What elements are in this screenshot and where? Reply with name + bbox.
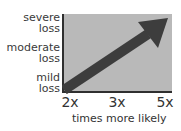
x-axis-title: times more likely	[72, 113, 167, 125]
x-tick-5x: 5x	[156, 95, 173, 109]
x-tick-3x: 3x	[108, 95, 125, 109]
y-label-line: loss	[23, 23, 60, 34]
y-label-severe: severe loss	[23, 12, 60, 34]
x-tick-2x: 2x	[61, 95, 78, 109]
y-label-mild: mild loss	[36, 72, 60, 94]
y-label-line: loss	[36, 83, 60, 94]
y-label-moderate: moderate loss	[6, 42, 60, 64]
trend-arrow-icon	[62, 14, 174, 94]
y-label-line: loss	[6, 53, 60, 64]
